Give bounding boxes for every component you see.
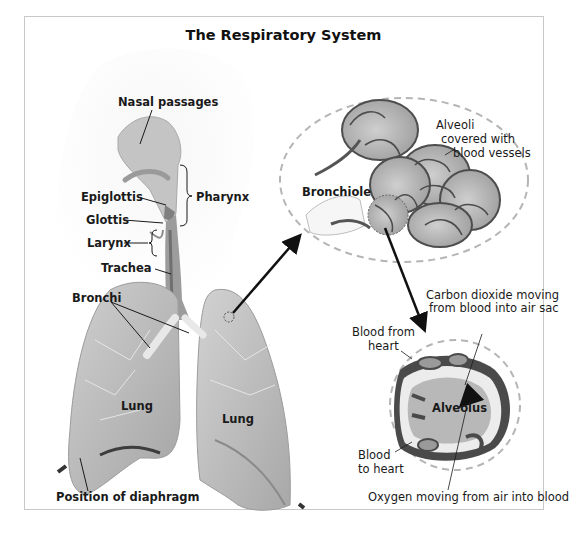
label-alveoli-line3: blood vessels (453, 147, 531, 160)
label-lung-left: Lung (121, 400, 153, 413)
label-blood-to-line2: to heart (358, 463, 404, 476)
left-lung-shape (69, 282, 180, 495)
label-nasal-passages: Nasal passages (118, 96, 218, 109)
label-glottis: Glottis (86, 214, 129, 227)
arrow-lung-to-bronchiole (233, 239, 297, 313)
label-blood-from-line2: heart (368, 340, 399, 353)
label-alveoli-line1: Alveoli (436, 119, 526, 132)
label-larynx: Larynx (87, 237, 131, 250)
label-blood-from-line1: Blood from (352, 326, 415, 339)
label-oxygen-moving: Oxygen moving from air into blood (368, 491, 569, 504)
label-alveoli-line2: covered with (441, 133, 515, 146)
label-blood-to-line1: Blood (358, 449, 390, 462)
diagram-title: The Respiratory System (0, 27, 567, 43)
label-trachea: Trachea (101, 262, 152, 275)
label-lung-right: Lung (222, 413, 254, 426)
label-position-of-diaphragm: Position of diaphragm (56, 491, 200, 504)
label-pharynx: Pharynx (196, 191, 249, 204)
arrow-alveoli-to-alveolus (385, 228, 423, 326)
right-lung-shape (197, 289, 291, 510)
diaphragm-marker-left (58, 466, 66, 472)
label-epiglottis: Epiglottis (81, 191, 143, 204)
label-bronchi: Bronchi (72, 292, 121, 305)
diaphragm-marker-right (299, 504, 304, 508)
label-alveolus: Alveolus (432, 402, 487, 415)
label-co2-line2: from blood into air sac (429, 302, 559, 315)
label-bronchiole: Bronchiole (302, 186, 371, 199)
